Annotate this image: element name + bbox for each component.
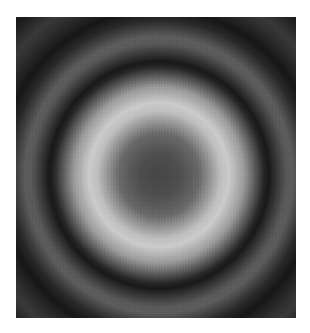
- interference-image: Grayscale concentric ring interference p…: [16, 17, 296, 318]
- image-vignette: [16, 17, 296, 318]
